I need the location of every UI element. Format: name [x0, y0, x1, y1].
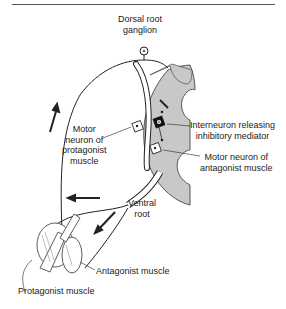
label-ventral-root: Ventral root: [128, 198, 156, 219]
label-motor-neuron-antagonist: Motor neuron of antagonist muscle: [200, 152, 273, 173]
label-dorsal-root-ganglion: Dorsal root ganglion: [118, 14, 162, 35]
motor-nerve-antagonist: [85, 208, 128, 268]
label-interneuron: Interneuron releasing inhibitory mediato…: [190, 120, 275, 141]
label-antagonist-muscle: Antagonist muscle: [96, 266, 170, 277]
muscle-antagonist: [62, 237, 82, 273]
label-protagonist-muscle: Protagonist muscle: [18, 286, 95, 297]
label-motor-neuron-protagonist: Motor neuron of protagonist muscle: [62, 124, 107, 166]
